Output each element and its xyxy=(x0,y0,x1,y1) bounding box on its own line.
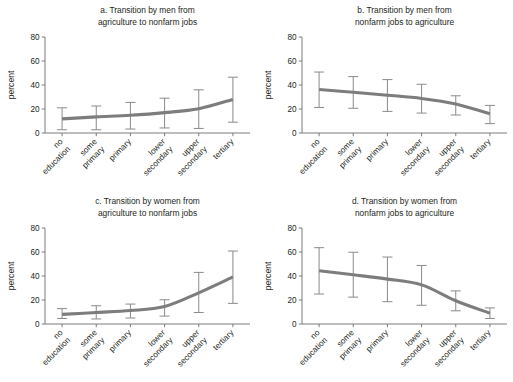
panel-title-line2: nonfarm jobs to agriculture xyxy=(355,208,454,218)
chart-panel-c: c. Transition by women fromagriculture t… xyxy=(0,191,256,382)
x-category-label: lowersecondary xyxy=(134,137,175,178)
x-category-label-line: tertiary xyxy=(211,328,236,353)
y-tick-label: 80 xyxy=(30,33,40,42)
x-category-label-line: primary xyxy=(107,137,133,163)
panel-title-line1: d. Transition by women from xyxy=(352,196,457,206)
panel-title-line2: agriculture to nonfarm jobs xyxy=(98,208,197,218)
y-tick-label: 80 xyxy=(287,33,297,42)
data-series-line xyxy=(319,90,490,114)
x-category-label: tertiary xyxy=(211,137,236,162)
y-tick-label: 0 xyxy=(35,320,40,329)
x-category-label: tertiary xyxy=(468,137,493,162)
y-tick-label: 40 xyxy=(287,81,297,90)
y-tick-label: 20 xyxy=(287,105,297,114)
y-tick-label: 80 xyxy=(287,224,297,233)
chart-panel-b: b. Transition by men fromnonfarm jobs to… xyxy=(257,0,513,191)
chart-svg-c: c. Transition by women fromagriculture t… xyxy=(0,191,256,382)
y-axis-label: percent xyxy=(6,70,16,99)
x-category-label: someprimary xyxy=(330,137,364,171)
x-category-label: uppersecondary xyxy=(168,137,209,178)
x-category-label: someprimary xyxy=(73,137,107,171)
error-bar xyxy=(485,105,495,123)
chart-svg-b: b. Transition by men fromnonfarm jobs to… xyxy=(257,0,513,191)
chart-svg-a: a. Transition by men fromagriculture to … xyxy=(0,0,256,191)
x-category-label: uppersecondary xyxy=(168,328,209,369)
x-category-label: uppersecondary xyxy=(425,328,466,369)
y-tick-label: 40 xyxy=(30,81,40,90)
y-tick-label: 0 xyxy=(292,320,297,329)
x-category-label: tertiary xyxy=(211,328,236,353)
y-tick-label: 20 xyxy=(30,296,40,305)
y-tick-label: 80 xyxy=(30,224,40,233)
x-category-label: primary xyxy=(107,137,133,163)
chart-panel-a: a. Transition by men fromagriculture to … xyxy=(0,0,256,191)
y-tick-label: 40 xyxy=(30,272,40,281)
x-category-label-line: primary xyxy=(364,328,390,354)
y-tick-label: 0 xyxy=(35,129,40,138)
x-category-label: noeducation xyxy=(290,137,329,176)
chart-panel-d: d. Transition by women fromnonfarm jobs … xyxy=(257,191,513,382)
x-category-label: lowersecondary xyxy=(391,137,432,178)
x-category-label: lowersecondary xyxy=(134,328,175,369)
panel-title-line2: nonfarm jobs to agriculture xyxy=(355,17,454,27)
x-category-label: lowersecondary xyxy=(391,328,432,369)
panel-title-line1: c. Transition by women from xyxy=(95,196,200,206)
y-tick-label: 20 xyxy=(30,105,40,114)
x-category-label-line: primary xyxy=(364,137,390,163)
y-tick-label: 60 xyxy=(287,248,297,257)
figure-container: a. Transition by men fromagriculture to … xyxy=(0,0,513,382)
x-category-label: primary xyxy=(364,328,390,354)
x-category-label-line: tertiary xyxy=(211,137,236,162)
x-category-label: noeducation xyxy=(33,328,72,367)
y-axis-label: percent xyxy=(263,261,273,290)
y-tick-label: 40 xyxy=(287,272,297,281)
y-tick-label: 0 xyxy=(292,129,297,138)
panel-title-line2: agriculture to nonfarm jobs xyxy=(98,17,197,27)
chart-svg-d: d. Transition by women fromnonfarm jobs … xyxy=(257,191,513,382)
x-category-label: primary xyxy=(364,137,390,163)
x-category-label-line: tertiary xyxy=(468,328,493,353)
y-tick-label: 20 xyxy=(287,296,297,305)
x-category-label-line: primary xyxy=(107,328,133,354)
x-category-label: primary xyxy=(107,328,133,354)
data-series-line xyxy=(319,271,490,313)
y-tick-label: 60 xyxy=(30,57,40,66)
x-category-label: noeducation xyxy=(33,137,72,176)
x-category-label: noeducation xyxy=(290,328,329,367)
x-category-label-line: tertiary xyxy=(468,137,493,162)
x-category-label: uppersecondary xyxy=(425,137,466,178)
x-category-label: tertiary xyxy=(468,328,493,353)
panel-title-line1: b. Transition by men from xyxy=(357,5,452,15)
y-tick-label: 60 xyxy=(30,248,40,257)
data-series-line xyxy=(62,277,233,314)
y-axis-label: percent xyxy=(263,70,273,99)
y-axis-label: percent xyxy=(6,261,16,290)
x-category-label: someprimary xyxy=(330,328,364,362)
x-category-label: someprimary xyxy=(73,328,107,362)
data-series-line xyxy=(62,99,233,118)
y-tick-label: 60 xyxy=(287,57,297,66)
panel-title-line1: a. Transition by men from xyxy=(100,5,195,15)
